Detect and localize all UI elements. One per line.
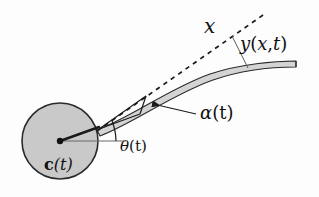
theta-angle-label: θ(t) xyxy=(120,139,147,154)
alpha-suffix: (t) xyxy=(212,102,233,123)
y-close-paren: ) xyxy=(280,33,287,54)
alpha-symbol: α xyxy=(200,102,212,123)
flexible-beam-body xyxy=(97,61,296,136)
theta-suffix: (t) xyxy=(129,137,147,155)
theta-symbol: θ xyxy=(120,137,129,155)
hub-center-point xyxy=(57,138,63,144)
hub-center-label: c(t) xyxy=(44,157,73,173)
beam-deflection-label: y(x,t) xyxy=(240,35,287,53)
y-arg-x: x xyxy=(257,33,267,54)
c-symbol: c xyxy=(44,155,54,174)
alpha-label-arrow xyxy=(153,104,196,114)
y-symbol: y xyxy=(240,33,250,54)
beam-hub-diagram: x y(x,t) α(t) θ(t) c(t) xyxy=(0,0,319,197)
x-axis-label: x xyxy=(204,16,215,36)
alpha-angle-label: α(t) xyxy=(200,104,233,122)
c-suffix: (t) xyxy=(54,155,73,174)
